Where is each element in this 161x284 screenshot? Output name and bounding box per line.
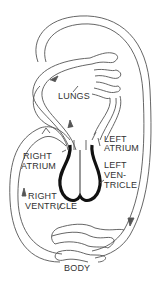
body-capillaries <box>52 224 124 262</box>
label-right-ventricle-line2: VENTRICLE <box>25 202 77 212</box>
label-body: BODY <box>64 264 90 274</box>
label-lungs: LUNGS <box>58 92 90 102</box>
label-right-atrium-line2: ATRIUM <box>21 162 56 172</box>
label-left-ventricle-line3: TRICLE <box>104 181 137 191</box>
label-left-atrium-line2: ATRIUM <box>104 144 139 154</box>
circulation-diagram <box>0 0 161 284</box>
